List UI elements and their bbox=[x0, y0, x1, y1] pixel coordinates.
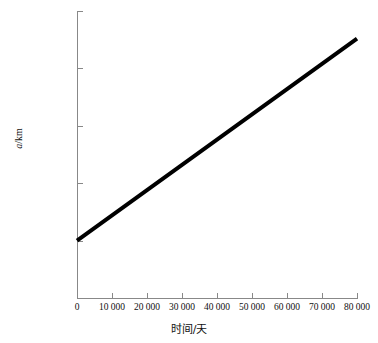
x-axis-title: 时间/天 bbox=[0, 320, 378, 336]
y-axis-title-units: /km bbox=[13, 128, 24, 144]
x-tick-label: 10 000 bbox=[99, 303, 125, 313]
x-tick-label: 40 000 bbox=[204, 303, 230, 313]
x-tick-label: 50 000 bbox=[239, 303, 265, 313]
x-tick-label: 60 000 bbox=[274, 303, 300, 313]
x-tick-label: 80 000 bbox=[344, 303, 370, 313]
chart-figure: 190 000191 000192 000193 000194 000195 0… bbox=[0, 0, 378, 343]
y-axis-title-symbol: a bbox=[13, 144, 24, 149]
series-line-a bbox=[77, 39, 357, 241]
x-tick-label: 0 bbox=[75, 303, 80, 313]
plot-area bbox=[77, 11, 358, 299]
x-tick-label: 70 000 bbox=[309, 303, 335, 313]
x-tick-label: 30 000 bbox=[169, 303, 195, 313]
x-tick-label: 20 000 bbox=[134, 303, 160, 313]
y-axis-title: a/km bbox=[13, 119, 24, 159]
data-line-layer bbox=[77, 11, 358, 299]
